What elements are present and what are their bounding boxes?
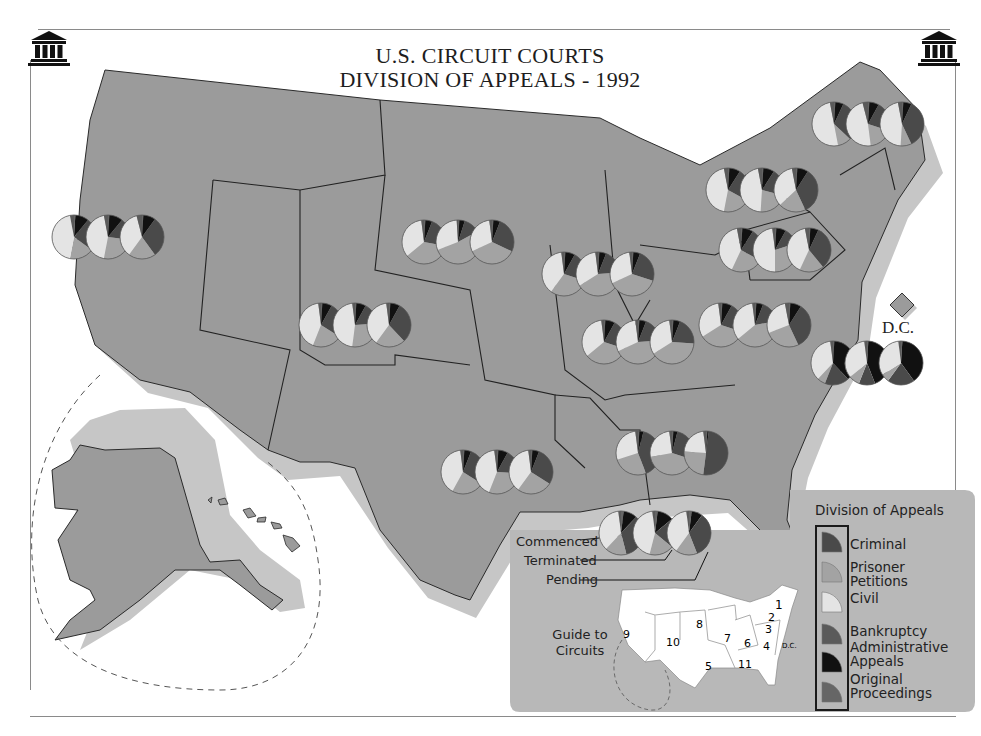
guide-num-6: 6 bbox=[744, 637, 751, 650]
label-terminated: Terminated bbox=[524, 553, 597, 568]
guide-num-7: 7 bbox=[724, 632, 731, 645]
legend-item-criminal: Criminal bbox=[850, 537, 906, 551]
legend-swatch-prisoner-petitions bbox=[820, 560, 844, 584]
label-pending: Pending bbox=[546, 572, 598, 587]
legend-swatch-original-proceedings bbox=[820, 680, 844, 704]
dc-marker bbox=[890, 293, 917, 320]
pie-slice-civil bbox=[52, 215, 74, 258]
pie-circuit-2-pending bbox=[773, 167, 819, 213]
pie-slice-civil bbox=[706, 168, 728, 211]
guide-num-3: 3 bbox=[765, 623, 772, 636]
pie-slice-civil bbox=[740, 168, 762, 212]
legend-item-bankruptcy: Bankruptcy bbox=[850, 624, 927, 638]
pie-circuit-11-pending bbox=[683, 430, 729, 476]
guide-num-dc: D.C. bbox=[782, 642, 797, 650]
legend-item-civil: Civil bbox=[850, 591, 879, 605]
guide-num-5: 5 bbox=[705, 660, 712, 673]
pie-slice-civil bbox=[753, 228, 775, 272]
pie-circuit-1-pending bbox=[879, 101, 925, 147]
guide-num-9: 9 bbox=[623, 628, 630, 641]
pie-circuit-9-pending bbox=[119, 214, 165, 260]
pie-circuit-6-pending bbox=[649, 319, 695, 365]
pie-circuit-3-pending bbox=[786, 227, 832, 273]
pie-circuit-5-pending bbox=[508, 449, 554, 495]
pie-slice-prisoner-petitions bbox=[684, 452, 706, 475]
pie-slice-civil bbox=[880, 102, 902, 146]
pie-slice-civil bbox=[333, 303, 355, 347]
pie-circuit-d-c--pending bbox=[878, 340, 924, 386]
guide-num-11: 11 bbox=[738, 658, 752, 671]
pie-slice-civil bbox=[650, 431, 672, 457]
legend-item-original-proceedings: Original Proceedings bbox=[850, 672, 960, 700]
guide-num-1: 1 bbox=[775, 598, 783, 612]
pie-circuit-example-5th--pending bbox=[666, 510, 712, 556]
legend-swatch-bankruptcy bbox=[820, 622, 844, 646]
pie-circuit-8-pending bbox=[469, 219, 515, 265]
guide-to-circuits-label: Guide to Circuits bbox=[545, 627, 615, 659]
legend-item-administrative-appeals: Administrative Appeals bbox=[850, 640, 975, 668]
guide-num-10: 10 bbox=[666, 636, 680, 649]
dc-label: D.C. bbox=[882, 318, 914, 338]
label-commenced: Commenced bbox=[516, 534, 598, 549]
legend-item-prisoner-petitions: Prisoner Petitions bbox=[850, 560, 930, 588]
guide-num-8: 8 bbox=[696, 618, 703, 631]
legend-swatch-civil bbox=[820, 590, 844, 614]
pie-circuit-7-pending bbox=[609, 251, 655, 297]
pie-circuit-10-pending bbox=[366, 302, 412, 348]
legend-swatch-administrative-appeals bbox=[820, 650, 844, 674]
guide-num-4: 4 bbox=[763, 640, 770, 653]
pie-circuit-4-pending bbox=[766, 302, 812, 348]
legend-swatch-criminal bbox=[820, 530, 844, 554]
pie-slice-civil bbox=[86, 215, 108, 258]
legend-title: Division of Appeals bbox=[815, 502, 944, 518]
